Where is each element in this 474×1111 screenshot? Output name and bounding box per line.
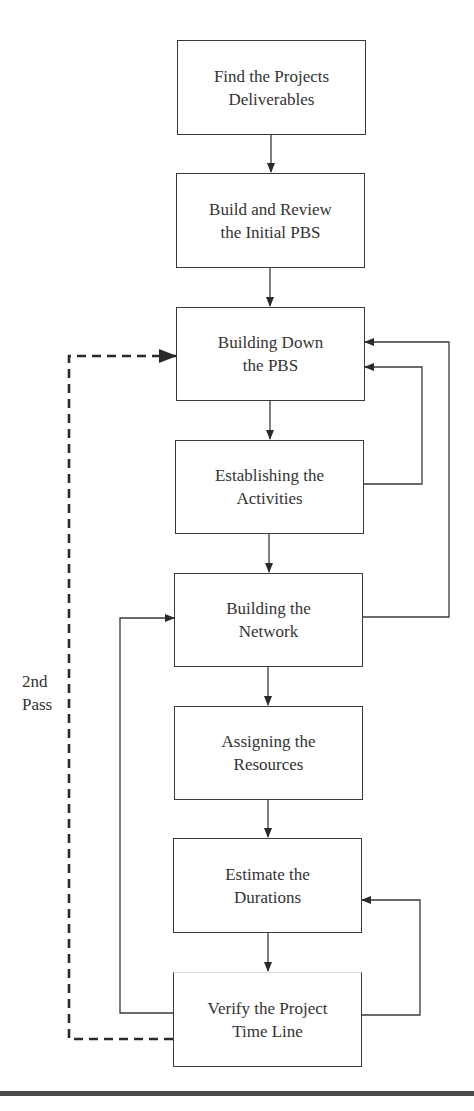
step-label: Verify the Project Time Line [208,997,328,1043]
step-estimate-durations: Estimate the Durations [173,838,362,933]
feedback-s8-s5 [120,618,174,1013]
second-pass-text: 2nd Pass [22,670,52,716]
feedback-s4-s3 [364,367,422,484]
bottom-rule [0,1091,474,1096]
step-building-down-pbs: Building Down the PBS [176,307,365,401]
step-label: Estimate the Durations [225,863,310,909]
step-building-network: Building the Network [174,573,363,667]
feedback-s8-s7 [361,900,420,1015]
second-pass-dashed-arrow [69,356,176,1039]
feedback-s5-s3 [363,342,449,617]
step-find-deliverables: Find the Projects Deliverables [177,40,366,135]
step-label: Building the Network [226,597,311,643]
step-assigning-resources: Assigning the Resources [174,706,363,800]
step-label: Establishing the Activities [215,464,324,510]
step-label: Build and Review the Initial PBS [209,198,332,244]
step-verify-time-line: Verify the Project Time Line [173,972,362,1067]
step-label: Find the Projects Deliverables [214,65,329,111]
second-pass-label: 2nd Pass [22,670,52,716]
flowchart-connectors [0,0,474,1111]
step-build-review-pbs: Build and Review the Initial PBS [176,173,365,268]
step-label: Assigning the Resources [222,730,316,776]
step-label: Building Down the PBS [218,331,323,377]
step-establishing-activities: Establishing the Activities [175,440,364,534]
